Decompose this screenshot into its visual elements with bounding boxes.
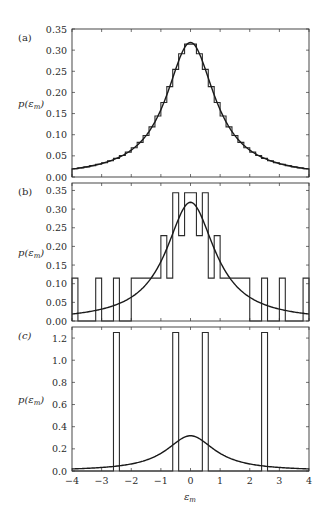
y-tick-label: 0.35	[46, 185, 67, 196]
y-tick-label: 0.05	[46, 297, 67, 308]
x-tick-label: 0	[187, 475, 193, 486]
histogram	[72, 333, 309, 471]
x-tick-label: 3	[276, 475, 282, 486]
y-tick-label: 0.20	[46, 241, 67, 252]
panel-label: (a)	[18, 32, 32, 43]
y-tick-label: 1.2	[52, 333, 67, 344]
y-tick-label: 1.0	[52, 355, 67, 366]
y-tick-label: 0.2	[52, 443, 67, 454]
cauchy-density-curve	[72, 202, 309, 314]
y-tick-label: 0.35	[46, 24, 67, 35]
x-tick-label: −4	[65, 475, 79, 486]
panel-c: (c)p(εm)0.00.20.40.60.81.01.2−4−3−2−1012…	[18, 327, 312, 486]
panel-a: (a)p(εm)0.000.050.100.150.200.250.300.35	[18, 24, 309, 183]
y-tick-label: 0.30	[46, 204, 67, 215]
x-tick-label: 1	[217, 475, 223, 486]
y-tick-label: 0.4	[52, 421, 67, 432]
y-tick-label: 0.10	[46, 129, 67, 140]
y-tick-label: 0.30	[46, 45, 67, 56]
x-axis-label: εm	[184, 491, 196, 504]
x-tick-label: −3	[95, 475, 109, 486]
x-tick-label: −2	[124, 475, 138, 486]
plot-frame	[72, 29, 309, 177]
y-tick-label: 0.8	[52, 377, 67, 388]
y-tick-label: 0.6	[52, 399, 67, 410]
y-tick-label: 0.15	[46, 260, 67, 271]
y-tick-label: 0.25	[46, 66, 67, 77]
y-axis-label: p(εm)	[18, 98, 44, 111]
y-tick-label: 0.05	[46, 150, 67, 161]
figure-caption-cut-off	[20, 524, 320, 528]
plot-frame	[72, 183, 309, 321]
y-tick-label: 0.00	[46, 172, 67, 183]
x-tick-label: 2	[247, 475, 253, 486]
panel-label: (c)	[18, 330, 32, 341]
panel-label: (b)	[18, 186, 32, 197]
cauchy-density-curve	[72, 42, 309, 169]
y-tick-label: 0.10	[46, 278, 67, 289]
y-tick-label: 0.00	[46, 316, 67, 327]
y-tick-label: 0.20	[46, 87, 67, 98]
y-axis-label: p(εm)	[18, 247, 44, 260]
histogram	[72, 44, 309, 177]
cauchy-density-curve	[72, 436, 309, 469]
x-tick-label: 4	[306, 475, 312, 486]
panel-b: (b)p(εm)0.000.050.100.150.200.250.300.35	[18, 183, 309, 327]
figure: (a)p(εm)0.000.050.100.150.200.250.300.35…	[0, 0, 327, 528]
histogram	[72, 193, 309, 321]
y-axis-label: p(εm)	[18, 394, 44, 407]
y-tick-label: 0.25	[46, 222, 67, 233]
plot-frame	[72, 327, 309, 471]
x-tick-label: −1	[154, 475, 168, 486]
y-tick-label: 0.15	[46, 108, 67, 119]
